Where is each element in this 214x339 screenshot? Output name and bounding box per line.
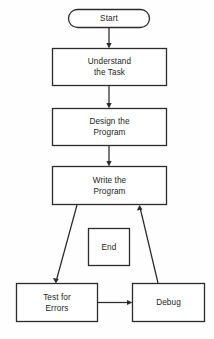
flowchart-canvas: Start Understand the Task Design the Pro… <box>0 0 214 339</box>
arrowhead-test-to-debug <box>127 300 133 305</box>
connector-debug-to-write <box>140 209 158 283</box>
arrowhead-start-to-understand <box>106 43 111 49</box>
flowchart-graphics <box>0 0 214 339</box>
node-shape-start[interactable] <box>69 10 150 28</box>
node-shape-understand-the-task[interactable] <box>53 49 167 86</box>
node-shape-write-the-program[interactable] <box>53 167 167 205</box>
node-shape-test-for-errors[interactable] <box>17 284 98 322</box>
arrowhead-understand-to-design <box>106 103 111 109</box>
node-shape-end[interactable] <box>89 229 130 266</box>
connector-write-to-test <box>57 205 77 280</box>
node-shape-debug[interactable] <box>133 284 205 322</box>
node-shape-design-the-program[interactable] <box>53 109 167 146</box>
arrowhead-design-to-write <box>106 161 111 167</box>
arrowhead-write-to-test <box>53 278 59 284</box>
arrowhead-debug-to-write <box>137 205 143 211</box>
